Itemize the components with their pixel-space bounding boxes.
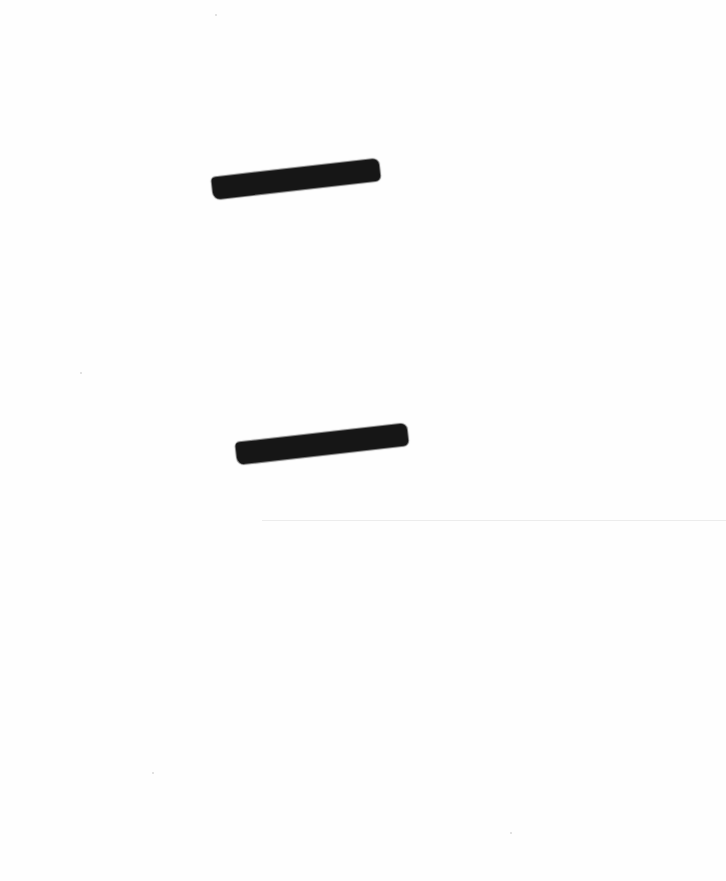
redaction-bar [235, 423, 408, 464]
scan-speck [152, 772, 154, 774]
scanned-page [0, 0, 726, 881]
scan-speck [80, 372, 82, 374]
scan-speck [510, 832, 512, 834]
redaction-bar [211, 159, 380, 200]
horizontal-rule [262, 520, 726, 521]
scan-speck [215, 14, 217, 16]
